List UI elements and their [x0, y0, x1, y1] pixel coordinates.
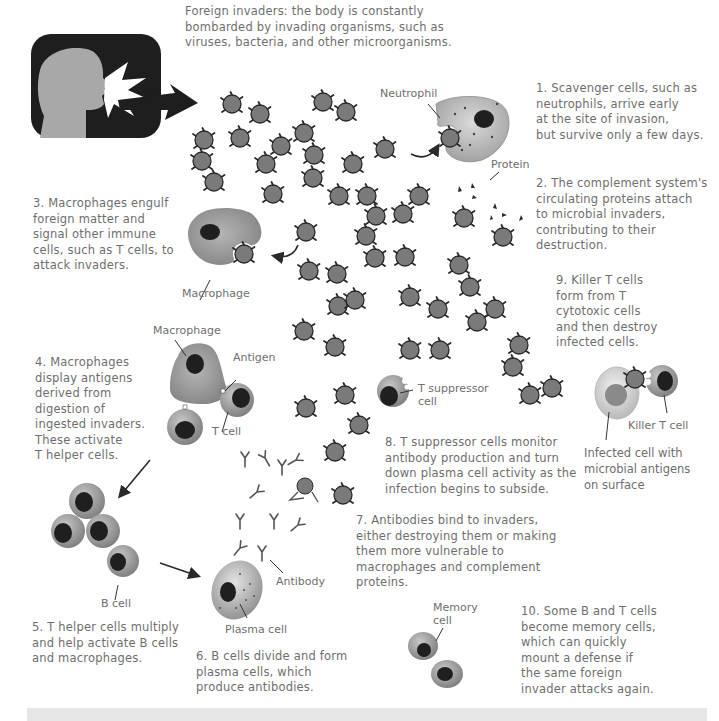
t-suppressor-cell [377, 375, 413, 407]
label-memory-cell: Memory cell [433, 601, 478, 627]
step-3-text: 3. Macrophages engulf foreign matter and… [33, 196, 174, 274]
step-10-text: 10. Some B and T cells become memory cel… [521, 604, 657, 697]
label-protein: Protein [491, 158, 530, 171]
label-killer-t-cell: Killer T cell [628, 419, 688, 432]
arrow-to-plasma-cell [160, 563, 198, 576]
complement-proteins [453, 172, 523, 246]
label-b-cell: B cell [101, 597, 131, 610]
intro-text: Foreign invaders: the body is constantly… [185, 4, 452, 51]
antibodies [231, 451, 318, 573]
label-neutrophil: Neutrophil [380, 87, 437, 100]
label-t-cell: T cell [212, 425, 241, 438]
bottom-bar [27, 708, 707, 721]
b-cell-cluster [51, 483, 139, 600]
sneeze-panel [31, 34, 198, 138]
label-macrophage-2: Macrophage [153, 324, 221, 337]
label-infected-cell: Infected cell with microbial antigens on… [584, 445, 690, 493]
step-1-text: 1. Scavenger cells, such as neutrophils,… [536, 81, 704, 143]
neutrophil-cell [411, 96, 509, 161]
step-2-text: 2. The complement system's circulating p… [536, 176, 707, 254]
step-6-text: 6. B cells divide and form plasma cells,… [196, 649, 347, 696]
memory-cells [408, 628, 463, 688]
step-7-text: 7. Antibodies bind to invaders, either d… [356, 513, 556, 591]
step-5-text: 5. T helper cells multiply and help acti… [32, 620, 179, 667]
step-9-text: 9. Killer T cells form from T cytotoxic … [556, 273, 658, 351]
label-antibody: Antibody [276, 575, 325, 588]
label-macrophage-1: Macrophage [182, 287, 250, 300]
step-8-text: 8. T suppressor cells monitor antibody p… [385, 435, 577, 497]
label-plasma-cell: Plasma cell [225, 623, 287, 636]
plasma-cell [203, 553, 271, 626]
label-antigen: Antigen [233, 351, 276, 364]
label-t-suppressor: T suppressor cell [418, 382, 489, 408]
step-4-text: 4. Macrophages display antigens derived … [35, 355, 145, 464]
arrow-to-b-cells [120, 460, 150, 496]
